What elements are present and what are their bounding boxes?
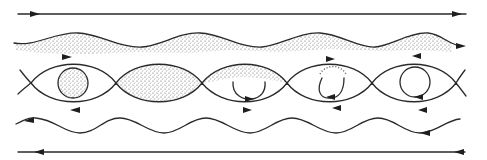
arrow-left-icon [412,53,421,59]
vortex-open-arc [319,78,344,98]
lower-wave [16,117,460,136]
upper-wave [14,33,466,54]
cats-eye-row [18,53,466,113]
upper-wave-shading [14,33,452,54]
arrow-left-icon [326,94,335,100]
top-stream [18,11,466,17]
arrow-left-icon [420,130,430,136]
cats-eye-streamline-diagram [0,0,487,160]
arrow-right-icon [452,11,462,17]
arrow-left-icon [454,149,464,155]
arrow-right-icon [30,11,40,17]
shaded-eye [116,64,202,102]
arrow-left-icon [414,94,423,100]
bottom-stream [18,149,465,155]
vortex-circle [400,67,430,97]
arrow-right-icon [62,54,72,60]
arrow-left-icon [332,105,341,111]
arrow-right-icon [326,56,335,62]
arrow-left-icon [418,107,427,113]
partial-shaded-eye [202,64,287,83]
vortex-arc [233,82,265,99]
arrow-left-icon [70,107,80,113]
arrow-right-icon [456,43,466,49]
arrow-left-icon [34,149,44,155]
arrow-right-icon [243,107,252,113]
dotted-arc-top [320,67,346,75]
